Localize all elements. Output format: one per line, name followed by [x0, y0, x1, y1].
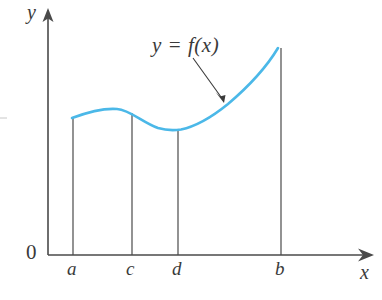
annotation-arrowhead [216, 92, 226, 103]
y-axis-label: y [27, 2, 36, 22]
annotation-arrow-shaft [193, 58, 221, 97]
function-curve [72, 48, 278, 130]
x-axis-label: x [360, 262, 369, 282]
calculus-graph-figure: y x 0 a c d b y = f(x) [0, 0, 382, 300]
function-equation-label: y = f(x) [152, 33, 219, 58]
origin-label: 0 [26, 242, 37, 263]
x-tick-label-c: c [126, 259, 134, 278]
x-tick-label-a: a [67, 259, 77, 278]
x-tick-label-b: b [275, 259, 285, 278]
x-tick-label-d: d [172, 259, 182, 278]
